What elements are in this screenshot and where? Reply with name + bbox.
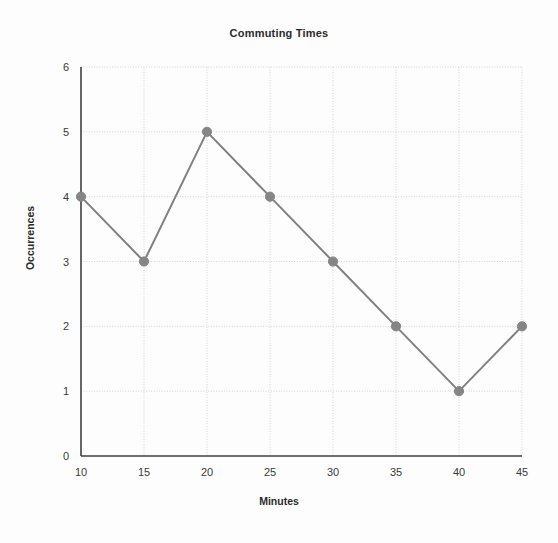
data-point-marker[interactable] bbox=[391, 322, 400, 331]
y-tick-label: 0 bbox=[63, 450, 69, 462]
chart-container: Commuting Times 01234561015202530354045 … bbox=[0, 0, 558, 543]
y-tick-label: 2 bbox=[63, 320, 69, 332]
x-tick-label: 35 bbox=[390, 466, 402, 478]
x-tick-label: 40 bbox=[453, 466, 465, 478]
data-point-marker[interactable] bbox=[202, 127, 211, 136]
x-axis-title: Minutes bbox=[0, 495, 558, 507]
data-point-marker[interactable] bbox=[328, 257, 337, 266]
x-tick-label: 30 bbox=[327, 466, 339, 478]
x-tick-label: 10 bbox=[75, 466, 87, 478]
y-tick-label: 5 bbox=[63, 126, 69, 138]
x-tick-label: 45 bbox=[516, 466, 528, 478]
y-axis-title: Occurrences bbox=[24, 178, 36, 298]
data-point-marker[interactable] bbox=[76, 192, 85, 201]
x-tick-label: 15 bbox=[138, 466, 150, 478]
data-point-marker[interactable] bbox=[517, 322, 526, 331]
data-point-marker[interactable] bbox=[265, 192, 274, 201]
line-chart-plot: 01234561015202530354045 bbox=[0, 0, 558, 543]
data-point-marker[interactable] bbox=[139, 257, 148, 266]
x-tick-label: 25 bbox=[264, 466, 276, 478]
y-tick-label: 3 bbox=[63, 256, 69, 268]
y-tick-label: 1 bbox=[63, 385, 69, 397]
y-tick-label: 6 bbox=[63, 61, 69, 73]
x-tick-label: 20 bbox=[201, 466, 213, 478]
y-tick-label: 4 bbox=[63, 191, 69, 203]
data-point-marker[interactable] bbox=[454, 387, 463, 396]
